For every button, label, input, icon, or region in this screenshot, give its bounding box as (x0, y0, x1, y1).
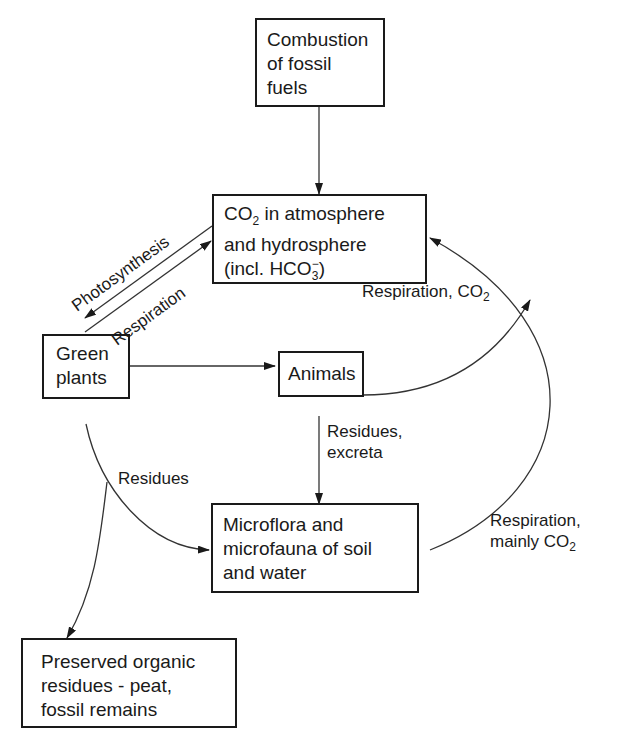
edge-text: excreta (327, 442, 403, 463)
node-preserved-line: fossil remains (41, 698, 217, 722)
node-microflora-line: and water (223, 561, 407, 585)
node-combustion-line: fuels (267, 76, 373, 100)
node-combustion-line: Combustion (267, 28, 373, 52)
atm-line2: and hydrosphere (224, 233, 415, 257)
arrow-animals-respiration (363, 300, 530, 395)
edge-label-respiration-microflora: Respiration, mainly CO2 (490, 510, 581, 558)
node-animals-label: Animals (288, 362, 354, 386)
node-green-plants-line: Green (56, 342, 116, 366)
edge-label-respiration-animals: Respiration, CO2 (362, 281, 490, 308)
node-combustion-line: of fossil (267, 52, 373, 76)
atm-text: CO (224, 203, 253, 224)
arrow-to-preserved (67, 482, 107, 638)
edge-sub: 2 (483, 290, 490, 304)
atm-text: ) (319, 258, 325, 279)
node-preserved: Preserved organic residues - peat, fossi… (21, 638, 237, 728)
node-microflora-line: microfauna of soil (223, 537, 407, 561)
node-atmosphere: CO2 in atmosphere and hydrosphere (incl.… (212, 194, 427, 284)
edge-line2: mainly CO2 (490, 531, 581, 558)
atm-sup: − (312, 258, 319, 270)
edge-sub: 2 (569, 540, 576, 554)
edge-label-residues-plants: Residues (118, 468, 189, 489)
edge-text: mainly CO (490, 532, 569, 551)
node-combustion: Combustion of fossil fuels (255, 18, 385, 107)
node-preserved-line: residues - peat, (41, 674, 217, 698)
node-green-plants-line: plants (56, 366, 116, 390)
atm-sub: 3 (312, 270, 319, 282)
atm-text: (incl. HCO (224, 258, 312, 279)
atm-line1: CO2 in atmosphere (224, 202, 415, 233)
node-animals: Animals (278, 351, 364, 397)
node-microflora: Microflora and microfauna of soil and wa… (211, 503, 419, 593)
edge-text: Respiration, CO (362, 282, 483, 301)
edge-label-residues-excreta: Residues, excreta (327, 421, 403, 463)
atm-line3: (incl. HCO−3) (224, 257, 415, 282)
edge-text: Respiration, (490, 510, 581, 531)
node-preserved-line: Preserved organic (41, 650, 217, 674)
edge-text: Residues, (327, 421, 403, 442)
node-microflora-line: Microflora and (223, 513, 407, 537)
atm-subsup: −3 (312, 258, 319, 282)
atm-text: in atmosphere (259, 203, 385, 224)
